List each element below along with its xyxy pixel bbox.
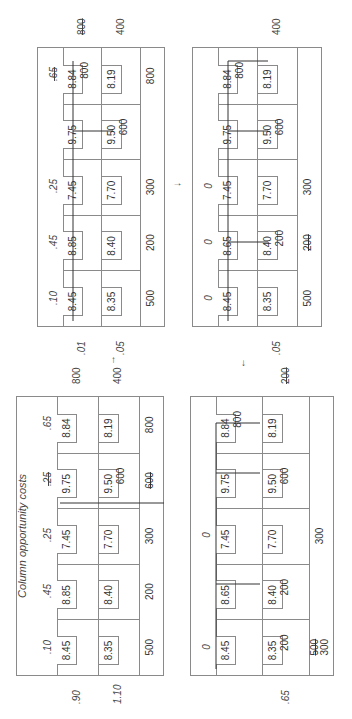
- demand-value: 500: [302, 290, 313, 307]
- table-cell[interactable]: 8.19: [102, 48, 141, 104]
- table-cell[interactable]: 8.19: [99, 397, 141, 453]
- demand-values: 200: [145, 583, 155, 600]
- column-cost-header: 000: [193, 48, 219, 326]
- demand-values: 300: [315, 528, 325, 545]
- unit-cost: 7.45: [216, 525, 236, 554]
- demand-cell: 800: [138, 397, 163, 453]
- demand-cell: 500300: [308, 619, 333, 675]
- demand-value: 200: [144, 583, 155, 600]
- table-cell[interactable]: 8.45: [216, 619, 263, 675]
- table-cell[interactable]: 8.19: [263, 397, 310, 453]
- table-cell[interactable]: 8.84800: [63, 48, 102, 104]
- demand-row: 500200300600800: [138, 397, 163, 675]
- table-cell[interactable]: 7.45: [216, 508, 263, 564]
- table-cell[interactable]: 7.70: [99, 508, 141, 564]
- demand-cell: 500: [138, 619, 163, 675]
- table-cell[interactable]: 9.50600: [258, 104, 298, 160]
- unit-cost: 8.65: [218, 231, 238, 260]
- demand-row: 500300300: [308, 397, 333, 675]
- column-opportunity-cost: 0: [201, 627, 212, 667]
- demand-values: 300: [146, 179, 156, 196]
- row-opportunity-cost: .65: [280, 690, 291, 704]
- table-cell[interactable]: 8.45: [63, 270, 102, 326]
- demand-cell: [296, 48, 321, 104]
- table-cell[interactable]: 7.45: [63, 159, 102, 215]
- demand-cell: 600: [138, 453, 163, 509]
- unit-cost: 9.75: [216, 469, 236, 498]
- demand-value: 800: [144, 416, 155, 433]
- allocation: 800: [232, 411, 243, 428]
- table-cell[interactable]: 9.75: [218, 104, 258, 160]
- table-cell[interactable]: 9.75: [57, 453, 99, 509]
- demand-cell: 300: [139, 159, 164, 215]
- table-cell[interactable]: 8.45: [57, 619, 99, 675]
- table-cell[interactable]: 8.84: [57, 397, 99, 453]
- table-cell[interactable]: 7.70: [102, 159, 141, 215]
- table-cell[interactable]: 8.85: [57, 564, 99, 620]
- row-supply: 800: [76, 18, 87, 35]
- demand-cell: 500: [296, 270, 321, 326]
- unit-cost: 8.19: [258, 65, 278, 94]
- table-cell[interactable]: 8.40200: [263, 564, 310, 620]
- table-cell[interactable]: 8.35: [99, 619, 141, 675]
- table-cell[interactable]: 7.45: [218, 159, 258, 215]
- arrow-icon: ↑: [111, 354, 116, 365]
- table-cell[interactable]: 8.84800: [216, 397, 263, 453]
- table-cell[interactable]: 7.45: [57, 508, 99, 564]
- table-cell[interactable]: 8.84800: [218, 48, 258, 104]
- table-cell[interactable]: 9.75: [63, 104, 102, 160]
- tableau-b: 0008.458.657.459.758.848008.358.402007.7…: [192, 47, 322, 327]
- allocation: 200: [279, 579, 290, 596]
- demand-cell: 200: [138, 564, 163, 620]
- unit-cost: 8.40: [102, 231, 122, 260]
- table-cell[interactable]: 8.35200: [263, 619, 310, 675]
- column-opportunity-cost: .65: [48, 54, 59, 94]
- row-opportunity-cost: .01: [76, 341, 87, 355]
- demand-cell: 200: [296, 215, 321, 271]
- allocation: 600: [115, 468, 126, 485]
- column-opportunity-cost: .65: [42, 403, 53, 443]
- column-opportunity-cost: 0: [201, 515, 212, 555]
- table-cell[interactable]: 9.50600: [102, 104, 141, 160]
- demand-value: 200: [302, 234, 313, 251]
- row-supply: 400: [112, 367, 123, 384]
- unit-cost: 7.45: [63, 176, 83, 205]
- table-cell[interactable]: 8.40: [102, 215, 141, 271]
- table-cell[interactable]: 9.50600: [99, 453, 141, 509]
- row-supply: 400: [115, 18, 126, 35]
- row-opportunity-cost: .90: [71, 690, 82, 704]
- unit-cost: 8.84: [57, 414, 77, 443]
- unit-cost: 8.35: [102, 287, 122, 316]
- column-opportunity-cost: .10: [42, 627, 53, 667]
- table-cell[interactable]: 8.85: [63, 215, 102, 271]
- cost-grid: 8.458.657.459.758.848008.352008.402007.7…: [216, 397, 310, 675]
- demand-values: 300: [303, 179, 313, 196]
- table-cell[interactable]: 7.70: [258, 159, 298, 215]
- table-cell[interactable]: 8.65: [216, 564, 263, 620]
- demand-values: 500: [303, 290, 313, 307]
- column-opportunity-cost: 0: [203, 222, 214, 262]
- unit-cost: 8.45: [216, 636, 236, 665]
- allocation: 600: [274, 119, 285, 136]
- table-cell[interactable]: 8.35: [258, 270, 298, 326]
- table-cell[interactable]: 8.45: [218, 270, 258, 326]
- table-cell[interactable]: 8.35: [102, 270, 141, 326]
- table-cell[interactable]: 9.75: [216, 453, 263, 509]
- allocation: 800: [79, 62, 90, 79]
- unit-cost: 9.75: [63, 120, 83, 149]
- table-cell[interactable]: 8.19: [258, 48, 298, 104]
- cost-grid: 8.458.657.459.758.848008.358.402007.709.…: [218, 48, 298, 326]
- table-cell[interactable]: 9.50600: [263, 453, 310, 509]
- demand-values: 200: [146, 234, 156, 251]
- table-cell[interactable]: 7.70: [263, 508, 310, 564]
- table-cell[interactable]: 8.40200: [258, 215, 298, 271]
- unit-cost: 8.19: [263, 414, 283, 443]
- demand-value: 300: [144, 528, 155, 545]
- unit-cost: 8.40: [99, 580, 119, 609]
- unit-cost: 8.85: [63, 231, 83, 260]
- cost-grid: 8.458.857.459.758.848.358.407.709.506008…: [57, 397, 140, 675]
- unit-cost: 8.19: [99, 414, 119, 443]
- table-cell[interactable]: 8.40: [99, 564, 141, 620]
- unit-cost: 9.75: [218, 120, 238, 149]
- table-cell[interactable]: 8.65: [218, 215, 258, 271]
